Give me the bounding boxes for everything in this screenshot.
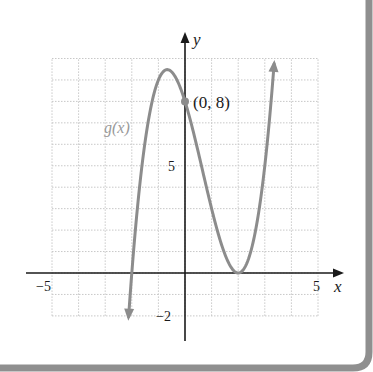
y-axis-label: y: [191, 30, 201, 49]
function-graph: (0, 8) g(x) 5 −2 −5 5 x y: [0, 0, 373, 372]
curve-label: g(x): [104, 119, 130, 137]
x-tick-neg5: −5: [36, 279, 51, 294]
x-axis-label: x: [333, 277, 342, 296]
curve-arrow-up-icon: [269, 60, 279, 72]
point-label: (0, 8): [193, 93, 230, 112]
y-tick-5: 5: [168, 159, 175, 174]
curve-arrow-down-icon: [124, 308, 134, 320]
point-0-8: [181, 97, 189, 105]
x-tick-5: 5: [313, 279, 320, 294]
y-tick-neg2: −2: [156, 309, 171, 324]
y-axis-arrow-icon: [181, 32, 190, 43]
graph-panel: (0, 8) g(x) 5 −2 −5 5 x y: [0, 0, 373, 372]
